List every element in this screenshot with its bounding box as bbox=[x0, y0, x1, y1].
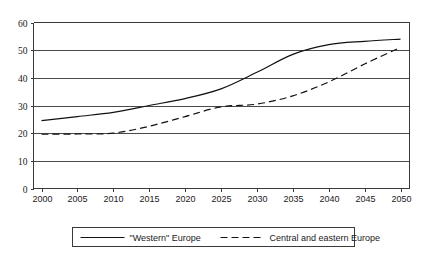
x-tick-label: 2050 bbox=[391, 194, 411, 204]
x-tick-label: 2000 bbox=[32, 194, 52, 204]
y-tick-label: 50 bbox=[18, 46, 28, 56]
y-tick-label: 60 bbox=[18, 19, 28, 29]
y-tick-label: 20 bbox=[18, 129, 28, 139]
x-tick-label: 2040 bbox=[319, 194, 339, 204]
x-tick-label: 2030 bbox=[247, 194, 267, 204]
chart-legend: "Western" EuropeCentral and eastern Euro… bbox=[73, 228, 381, 247]
y-tick-label: 40 bbox=[18, 74, 28, 84]
x-tick-label: 2015 bbox=[139, 194, 159, 204]
line-chart: 0102030405060 20002005201020152020202520… bbox=[0, 0, 426, 253]
y-tick-label: 0 bbox=[23, 185, 28, 195]
x-axis-tick-labels: 2000200520102015202020252030203520402045… bbox=[32, 194, 411, 204]
x-tick-label: 2005 bbox=[67, 194, 87, 204]
y-tick-label: 10 bbox=[18, 157, 28, 167]
series-line-2 bbox=[42, 47, 401, 134]
data-series bbox=[42, 39, 401, 134]
x-tick-label: 2010 bbox=[103, 194, 123, 204]
y-axis-tick-labels: 0102030405060 bbox=[18, 19, 28, 195]
series-line-1 bbox=[42, 39, 401, 121]
y-tick-label: 30 bbox=[18, 102, 28, 112]
x-tick-label: 2025 bbox=[211, 194, 231, 204]
plot-frame bbox=[34, 23, 410, 189]
legend-label-2: Central and eastern Europe bbox=[270, 233, 381, 243]
chart-container: 0102030405060 20002005201020152020202520… bbox=[0, 0, 426, 253]
legend-label-1: "Western" Europe bbox=[130, 233, 201, 243]
x-tick-label: 2020 bbox=[175, 194, 195, 204]
x-tick-label: 2045 bbox=[355, 194, 375, 204]
x-tick-label: 2035 bbox=[283, 194, 303, 204]
